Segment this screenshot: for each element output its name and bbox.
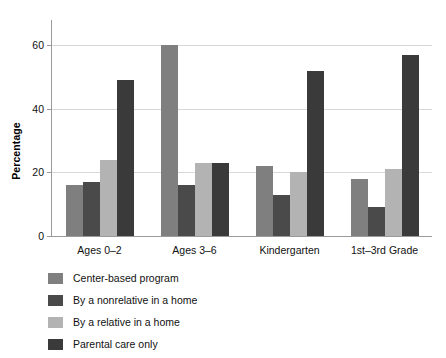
bar [66, 185, 83, 236]
y-axis-tick [47, 172, 51, 173]
y-axis-tick-label: 0 [38, 230, 44, 242]
bar [368, 207, 385, 236]
plot-area: 0204060 [51, 20, 432, 237]
y-axis-tick-label: 60 [32, 39, 44, 51]
chart-legend: Center-based programBy a nonrelative in … [48, 267, 197, 355]
bar [100, 160, 117, 236]
y-axis-title-text: Percentage [10, 122, 22, 180]
bar [351, 179, 368, 236]
bar [161, 45, 178, 236]
bar [195, 163, 212, 236]
y-axis-title: Percentage [6, 106, 26, 196]
bar-group [256, 20, 324, 236]
bar [83, 182, 100, 236]
legend-swatch [48, 273, 63, 284]
legend-swatch [48, 339, 63, 350]
legend-swatch [48, 295, 63, 306]
bar-group [66, 20, 134, 236]
x-axis-category-label: Ages 0–2 [77, 244, 121, 256]
bar-series-container [52, 20, 432, 236]
y-axis-tick [47, 45, 51, 46]
x-axis-line [51, 236, 432, 237]
legend-label: Center-based program [73, 272, 179, 284]
bar [290, 172, 307, 236]
legend-label: Parental care only [73, 338, 158, 350]
bar-group [161, 20, 229, 236]
bar [212, 163, 229, 236]
legend-item: By a nonrelative in a home [48, 289, 197, 311]
bar-chart-figure: Percentage 0204060 Ages 0–2Ages 3–6Kinde… [0, 0, 446, 358]
bar [117, 80, 134, 236]
x-axis-category-label: Ages 3–6 [172, 244, 216, 256]
legend-label: By a nonrelative in a home [73, 294, 197, 306]
x-axis-category-label: 1st–3rd Grade [351, 244, 418, 256]
bar [385, 169, 402, 236]
y-axis-tick-label: 40 [32, 103, 44, 115]
x-axis-category-label: Kindergarten [259, 244, 319, 256]
y-axis-tick [47, 109, 51, 110]
bar [256, 166, 273, 236]
legend-item: Center-based program [48, 267, 197, 289]
legend-item: By a relative in a home [48, 311, 197, 333]
bar [273, 195, 290, 236]
y-axis-tick-label: 20 [32, 166, 44, 178]
y-axis-tick [47, 236, 51, 237]
legend-label: By a relative in a home [73, 316, 180, 328]
legend-item: Parental care only [48, 333, 197, 355]
bar-group [351, 20, 419, 236]
bar [307, 71, 324, 236]
bar [402, 55, 419, 236]
bar [178, 185, 195, 236]
legend-swatch [48, 317, 63, 328]
